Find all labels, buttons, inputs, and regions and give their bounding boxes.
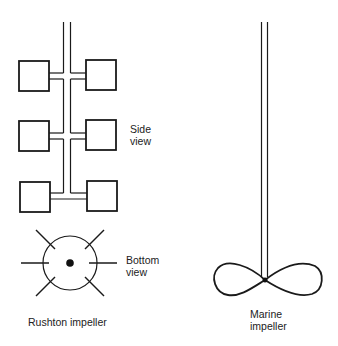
bottom-view-label-line2: view: [126, 266, 159, 278]
rushton-impeller-bottom-view: [21, 230, 117, 296]
side-view-label-line1: Side: [130, 123, 151, 135]
blade-pair-bottom: [20, 181, 117, 212]
bottom-view-label-line1: Bottom: [126, 254, 159, 266]
marine-caption-line2: impeller: [250, 320, 287, 332]
blade-pair-middle: [19, 120, 116, 151]
impeller-diagram: [0, 0, 338, 346]
side-view-label-line2: view: [130, 135, 151, 147]
side-view-label: Side view: [130, 123, 151, 147]
marine-caption-line1: Marine: [250, 308, 287, 320]
marine-impeller: [214, 22, 322, 295]
bottom-view-label: Bottom view: [126, 254, 159, 278]
blade-pair-top: [19, 60, 116, 91]
rushton-impeller-caption: Rushton impeller: [28, 316, 107, 328]
rushton-impeller-side-view: [19, 22, 117, 212]
marine-impeller-caption: Marine impeller: [250, 308, 287, 332]
